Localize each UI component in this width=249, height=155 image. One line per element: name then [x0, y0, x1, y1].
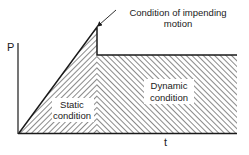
static-label-line2: condition: [53, 110, 91, 121]
dynamic-label-line2: condition: [150, 92, 188, 103]
y-axis-label: P: [7, 41, 14, 53]
static-label-line1: Static: [60, 99, 84, 110]
x-axis-label: t: [164, 136, 167, 148]
impending-label-line2: motion: [164, 18, 193, 29]
friction-force-diagram: P t Condition of impending motion Static…: [0, 0, 249, 155]
impending-label-line1: Condition of impending: [129, 7, 226, 18]
impending-leader-arrow: [99, 10, 116, 25]
dynamic-label-line1: Dynamic: [151, 80, 188, 91]
